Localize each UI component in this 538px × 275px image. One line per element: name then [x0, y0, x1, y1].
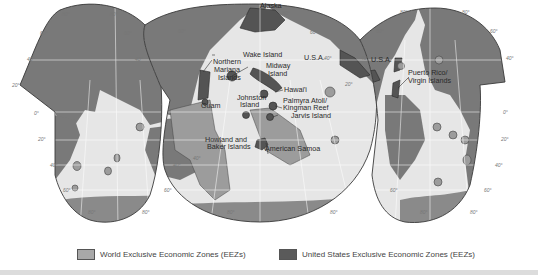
svg-text:40°: 40° [506, 55, 514, 61]
legend-item-us-eez: United States Exclusive Economic Zones (… [279, 249, 475, 260]
svg-text:40°: 40° [27, 56, 35, 62]
svg-text:40°: 40° [173, 162, 181, 168]
svg-text:60°: 60° [376, 28, 384, 34]
legend-item-world-eez: World Exclusive Economic Zones (EEZs) [77, 249, 246, 260]
svg-text:60°: 60° [310, 29, 318, 35]
label-alaska: Alaska [260, 1, 282, 10]
svg-text:80°: 80° [110, 11, 118, 17]
label-usa-mid: U.S.A. [304, 53, 325, 62]
svg-text:80°: 80° [470, 209, 478, 215]
svg-text:60°: 60° [390, 187, 398, 193]
legend-label-us-eez: United States Exclusive Economic Zones (… [302, 250, 475, 259]
svg-text:80°: 80° [88, 209, 96, 215]
svg-text:60°: 60° [40, 30, 48, 36]
svg-text:20°: 20° [210, 137, 219, 143]
label-guam: Guam [201, 101, 221, 110]
svg-text:20°: 20° [500, 136, 509, 142]
legend-label-world-eez: World Exclusive Economic Zones (EEZs) [100, 250, 246, 259]
svg-text:60°: 60° [178, 28, 186, 34]
us-eez-swatch [279, 249, 297, 260]
svg-text:80°: 80° [420, 209, 428, 215]
label-northern-mariana-3: Islands [218, 73, 241, 82]
svg-text:80°: 80° [227, 209, 235, 215]
world-eez-swatch [77, 249, 95, 260]
svg-text:60°: 60° [484, 187, 492, 193]
label-puerto-rico-2: Virgin Islands [408, 76, 451, 85]
svg-text:40°: 40° [495, 162, 503, 168]
svg-text:80°: 80° [282, 10, 290, 16]
svg-text:80°: 80° [208, 5, 216, 11]
label-wake-island: Wake Island [243, 50, 282, 59]
svg-text:0°: 0° [34, 110, 39, 116]
svg-text:80°: 80° [400, 9, 408, 15]
label-howland-2: Baker Islands [207, 142, 251, 151]
svg-text:20°: 20° [11, 82, 20, 88]
svg-text:60°: 60° [124, 30, 132, 36]
middle-lobe [140, 0, 390, 228]
svg-text:40°: 40° [361, 55, 369, 61]
label-american-samoa: American Samoa [265, 144, 320, 153]
svg-text:60°: 60° [63, 187, 71, 193]
svg-text:60°: 60° [490, 28, 498, 34]
svg-text:20°: 20° [344, 81, 353, 87]
label-midway-2: Island [268, 69, 287, 78]
svg-text:40°: 40° [193, 155, 201, 161]
svg-text:40°: 40° [135, 56, 143, 62]
svg-text:80°: 80° [62, 11, 70, 17]
svg-text:20°: 20° [37, 136, 46, 142]
svg-text:80°: 80° [142, 209, 150, 215]
label-johnston-2: Island [240, 100, 259, 109]
bottom-divider [0, 270, 538, 275]
svg-text:0°: 0° [503, 109, 508, 115]
svg-text:40°: 40° [324, 55, 332, 61]
eez-world-map: Alaska Wake Island U.S.A. Northern Maria… [0, 0, 538, 228]
label-hawaii: Hawai'i [284, 85, 307, 94]
svg-text:40°: 40° [50, 162, 58, 168]
svg-text:80°: 80° [462, 9, 470, 15]
svg-text:60°: 60° [164, 187, 172, 193]
svg-text:80°: 80° [330, 209, 338, 215]
label-usa-right: U.S.A. [371, 55, 392, 64]
label-jarvis: Jarvis Island [291, 111, 331, 120]
eurasia-land [20, 0, 170, 125]
antarctica-left [60, 195, 170, 228]
